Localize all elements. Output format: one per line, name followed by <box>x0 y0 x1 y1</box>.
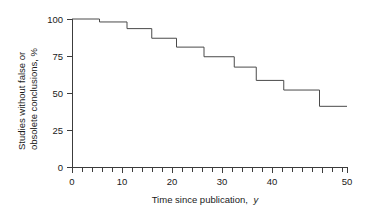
y-tick-label-75: 75 <box>52 51 63 62</box>
x-axis-title-text: Time since publication, <box>152 194 248 205</box>
y-tick-label-25: 25 <box>52 125 63 136</box>
x-axis-title: Time since publication, y <box>152 194 260 205</box>
y-axis-title: Studies without false or obsolete conclu… <box>16 48 39 150</box>
x-tick-label-10: 10 <box>117 176 128 187</box>
x-tick-label-50: 50 <box>342 176 353 187</box>
y-axis-title-line1: Studies without false or <box>16 52 27 150</box>
survival-step-chart: 100 75 50 25 0 <box>0 0 368 215</box>
y-tick-label-0: 0 <box>58 162 63 173</box>
x-tick-label-20: 20 <box>167 176 178 187</box>
chart-figure: 100 75 50 25 0 <box>0 0 368 215</box>
x-tick-label-30: 30 <box>217 176 228 187</box>
y-tick-label-100: 100 <box>47 14 63 25</box>
y-axis-title-line2: obsolete conclusions, % <box>28 48 39 150</box>
svg-text:Time since publication,: Time since publication, y <box>152 194 260 205</box>
y-tick-label-50: 50 <box>52 88 63 99</box>
chart-background <box>0 0 368 215</box>
x-tick-label-40: 40 <box>267 176 278 187</box>
x-tick-label-0: 0 <box>69 176 74 187</box>
